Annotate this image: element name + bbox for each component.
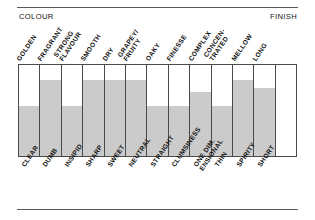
chart-column[interactable] [254,65,275,156]
top-axis-label: GRAPEY/FRUITY [116,28,146,62]
chart-column[interactable] [19,65,40,156]
top-axis-label: DRY [101,46,115,62]
tasting-profile-chart: COLOUR FINISH GOLDENFRAGRANTSTRONGFLAVOU… [0,0,315,220]
chart-bar [40,80,60,156]
top-axis-label: GOLDEN [15,33,38,62]
top-axis-label: FINESSE [165,33,188,62]
bottom-divider-rule [17,209,298,210]
top-axis-label: OAKY [144,41,161,62]
chart-column[interactable] [83,65,104,156]
colour-axis-caption: COLOUR [19,12,54,21]
top-divider-rule [17,7,298,8]
chart-column[interactable] [276,65,296,156]
finish-axis-caption: FINISH [270,12,297,21]
chart-column[interactable] [105,65,126,156]
chart-column[interactable] [40,65,61,156]
top-axis-label: LONG [251,41,268,62]
top-axis-label: MELLOW [230,32,253,62]
top-axis-label: SMOOTH [79,32,102,62]
chart-column[interactable] [62,65,83,156]
